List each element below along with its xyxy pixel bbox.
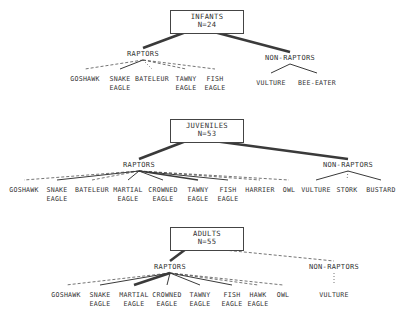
leaf-word-2: EAGLE <box>46 195 67 204</box>
leaf-word-2: EAGLE <box>89 300 110 309</box>
link-raptors-to-leaf-juveniles-5 <box>139 171 198 180</box>
leaf-word-2: EAGLE <box>187 195 208 204</box>
link-raptors-to-leaf-infants-1 <box>120 60 143 69</box>
leaf-word-2: EAGLE <box>189 300 210 309</box>
link-raptors-to-leaf-infants-3 <box>143 60 186 69</box>
link-raptors-to-leaf-adults-7 <box>170 273 283 285</box>
leaf-word-1: FISH <box>217 186 238 195</box>
leaf-word-1: BATELEUR <box>135 75 169 84</box>
link-non-raptors-to-leaf-juveniles-1 <box>347 171 348 180</box>
leaf-word-2: EAGLE <box>175 84 196 93</box>
link-raptors-to-leaf-adults-6 <box>170 273 258 285</box>
leaf-word-1: HARRIER <box>245 186 275 195</box>
leaf-label: OWL <box>283 186 296 195</box>
leaf-label: VULTURE <box>319 291 349 300</box>
leaf-word-2: EAGLE <box>119 300 149 309</box>
link-raptors-to-leaf-juveniles-3 <box>128 171 139 180</box>
link-root-to-raptors-juveniles <box>139 141 186 159</box>
link-raptors-to-leaf-juveniles-8 <box>139 171 289 180</box>
leaf-word-1: SNAKE <box>109 75 130 84</box>
leaf-word-1: VULTURE <box>301 186 331 195</box>
leaf-label: GOSHAWK <box>70 75 100 84</box>
leaf-word-2: EAGLE <box>152 300 182 309</box>
link-raptors-to-leaf-adults-2 <box>134 273 170 285</box>
leaf-word-2: EAGLE <box>247 300 268 309</box>
leaf-word-1: TAWNY <box>189 291 210 300</box>
leaf-word-1: CROWNED <box>152 291 182 300</box>
leaf-label: SNAKEEAGLE <box>109 75 130 93</box>
link-raptors-to-leaf-juveniles-2 <box>92 171 139 180</box>
root-count-infants: N=24 <box>177 21 237 29</box>
link-raptors-to-leaf-infants-4 <box>143 60 215 69</box>
leaf-label: TAWNYEAGLE <box>175 75 196 93</box>
leaf-label: FISHEAGLE <box>221 291 242 309</box>
leaf-label: TAWNYEAGLE <box>187 186 208 204</box>
leaf-label: STORK <box>336 186 357 195</box>
leaf-word-1: FISH <box>221 291 242 300</box>
leaf-label: VULTURE <box>256 79 286 88</box>
leaf-word-1: TAWNY <box>187 186 208 195</box>
link-raptors-to-leaf-adults-3 <box>167 273 170 285</box>
leaf-word-1: BEE-EATER <box>298 79 336 88</box>
leaf-label: FISHEAGLE <box>217 186 238 204</box>
link-raptors-to-leaf-juveniles-7 <box>139 171 260 180</box>
leaf-word-1: GOSHAWK <box>70 75 100 84</box>
leaf-label: BATELEUR <box>135 75 169 84</box>
leaf-label: GOSHAWK <box>9 186 39 195</box>
group-label-non-raptors-infants: NON-RAPTORS <box>265 54 315 62</box>
link-non-raptors-to-leaf-juveniles-2 <box>348 171 381 180</box>
root-node-infants: INFANTSN=24 <box>170 10 244 34</box>
leaf-word-1: SNAKE <box>89 291 110 300</box>
leaf-word-1: GOSHAWK <box>9 186 39 195</box>
leaf-label: CROWNEDEAGLE <box>148 186 178 204</box>
leaf-label: BUSTARD <box>366 186 396 195</box>
group-label-raptors-adults: RAPTORS <box>154 263 186 271</box>
leaf-word-2: EAGLE <box>109 84 130 93</box>
link-root-to-non-raptors-adults <box>214 249 334 261</box>
leaf-word-1: FISH <box>204 75 225 84</box>
link-raptors-to-leaf-adults-1 <box>100 273 170 285</box>
link-non-raptors-to-leaf-infants-1 <box>290 64 317 73</box>
link-raptors-to-leaf-adults-5 <box>170 273 232 285</box>
leaf-word-2: EAGLE <box>221 300 242 309</box>
leaf-word-2: EAGLE <box>113 195 143 204</box>
leaf-word-2: EAGLE <box>217 195 238 204</box>
link-raptors-to-leaf-infants-2 <box>143 60 152 69</box>
leaf-word-2: EAGLE <box>148 195 178 204</box>
leaf-label: SNAKEEAGLE <box>46 186 67 204</box>
link-raptors-to-leaf-infants-0 <box>85 60 143 69</box>
leaf-word-1: SNAKE <box>46 186 67 195</box>
leaf-word-1: CROWNED <box>148 186 178 195</box>
leaf-word-1: VULTURE <box>319 291 349 300</box>
leaf-word-1: BATELEUR <box>75 186 109 195</box>
leaf-word-1: STORK <box>336 186 357 195</box>
leaf-word-1: MARTIAL <box>113 186 143 195</box>
leaf-label: TAWNYEAGLE <box>189 291 210 309</box>
group-label-raptors-juveniles: RAPTORS <box>123 161 155 169</box>
leaf-word-1: HAWK <box>247 291 268 300</box>
leaf-word-2: EAGLE <box>204 84 225 93</box>
leaf-word-1: BUSTARD <box>366 186 396 195</box>
root-count-adults: N=55 <box>177 238 237 246</box>
link-root-to-non-raptors-infants <box>214 32 290 52</box>
link-raptors-to-leaf-adults-0 <box>66 273 170 285</box>
leaf-label: CROWNEDEAGLE <box>152 291 182 309</box>
leaf-label: MARTIALEAGLE <box>119 291 149 309</box>
leaf-label: HARRIER <box>245 186 275 195</box>
leaf-word-1: OWL <box>283 186 296 195</box>
link-non-raptors-to-leaf-infants-0 <box>271 64 290 73</box>
link-root-to-raptors-infants <box>143 32 186 48</box>
group-label-non-raptors-juveniles: NON-RAPTORS <box>323 161 373 169</box>
leaf-label: GOSHAWK <box>51 291 81 300</box>
root-node-adults: ADULTSN=55 <box>170 227 244 251</box>
root-count-juveniles: N=53 <box>177 130 237 138</box>
leaf-label: BATELEUR <box>75 186 109 195</box>
leaf-label: OWL <box>277 291 290 300</box>
leaf-label: SNAKEEAGLE <box>89 291 110 309</box>
group-label-raptors-infants: RAPTORS <box>127 50 159 58</box>
link-raptors-to-leaf-juveniles-0 <box>24 171 139 180</box>
root-node-juveniles: JUVENILESN=53 <box>170 119 244 143</box>
leaf-label: HAWKEAGLE <box>247 291 268 309</box>
leaf-label: BEE-EATER <box>298 79 336 88</box>
tree-diagram-canvas: INFANTSN=24RAPTORSGOSHAWKSNAKEEAGLEBATEL… <box>0 0 406 316</box>
